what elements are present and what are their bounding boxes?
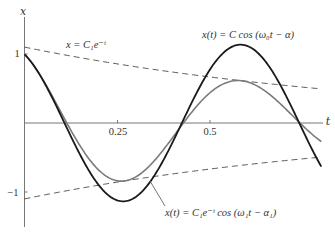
damped-oscillation-chart: x t 1 −1 0.25 0.5 x(t) = C cos (ω₀t − α)… [0,0,335,234]
damped-label-leader-line [150,181,165,206]
damped-equation-label: x(t) = C₁e⁻ᵗ cos (ω₁t − α₁) [164,207,277,219]
x-tick-label-025: 0.25 [109,126,127,137]
x-tick-label-05: 0.5 [203,126,216,137]
lower-envelope-line [25,157,322,199]
y-tick-label-m1: −1 [7,187,18,198]
envelope-equation-label: x = C₁e⁻ᵗ [65,39,107,50]
upper-envelope-line [25,47,322,89]
damped-oscillation-curve [25,54,322,181]
undamped-equation-label: x(t) = C cos (ω₀t − α) [201,29,294,41]
y-tick-label-1: 1 [14,48,19,59]
y-axis-label: x [20,5,27,18]
x-axis-label: t [326,115,331,128]
